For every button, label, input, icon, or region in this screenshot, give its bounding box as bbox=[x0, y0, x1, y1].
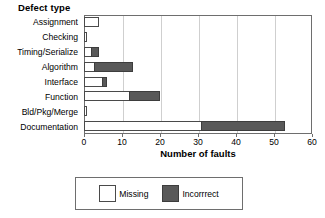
y-label-documentation: Documentation bbox=[0, 119, 81, 134]
bar-segment-missing bbox=[84, 77, 103, 87]
y-label-timing-serialize: Timing/Serialize bbox=[0, 45, 81, 60]
x-axis-ticks: 0102030405060 bbox=[84, 134, 312, 148]
stacked-bar bbox=[84, 47, 99, 57]
legend-swatch-missing-icon bbox=[99, 185, 116, 202]
legend-label-incorrect: Incorrrect bbox=[182, 189, 218, 199]
y-label-assignment: Assignment bbox=[0, 15, 81, 30]
legend-swatch-incorrect-icon bbox=[162, 185, 179, 202]
x-tick-label: 30 bbox=[193, 137, 203, 147]
x-tick-label: 10 bbox=[117, 137, 127, 147]
bar-segment-incorrect bbox=[129, 91, 160, 101]
x-axis-title: Number of faults bbox=[84, 148, 312, 159]
chart-legend: Missing Incorrrect bbox=[75, 177, 243, 210]
legend-item-missing: Missing bbox=[99, 185, 148, 202]
bar-segment-missing bbox=[84, 32, 87, 42]
bar-segment-incorrect bbox=[91, 47, 100, 57]
bar-segment-missing bbox=[84, 121, 202, 131]
y-label-algorithm: Algorithm bbox=[0, 60, 81, 75]
stacked-bar bbox=[84, 17, 99, 27]
x-tick-label: 0 bbox=[82, 137, 87, 147]
bar-segment-missing bbox=[84, 17, 99, 27]
y-label-bld-pkg-merge: Bld/Pkg/Merge bbox=[0, 104, 81, 119]
stacked-bar bbox=[84, 62, 133, 72]
y-label-checking: Checking bbox=[0, 30, 81, 45]
stacked-bar bbox=[84, 32, 87, 42]
chart-title: Defect type bbox=[18, 2, 70, 13]
bar-row bbox=[84, 89, 312, 104]
bar-segment-missing bbox=[84, 91, 130, 101]
legend-label-missing: Missing bbox=[119, 189, 148, 199]
x-tick-label: 20 bbox=[155, 137, 165, 147]
bar-segment-missing bbox=[84, 106, 87, 116]
y-axis-category-labels: Assignment Checking Timing/Serialize Alg… bbox=[0, 15, 81, 134]
y-label-function: Function bbox=[0, 89, 81, 104]
y-label-interface: Interface bbox=[0, 75, 81, 90]
stacked-bar bbox=[84, 121, 285, 131]
x-tick-label: 40 bbox=[231, 137, 241, 147]
stacked-bar bbox=[84, 91, 160, 101]
stacked-bar bbox=[84, 77, 107, 87]
bar-row bbox=[84, 119, 312, 134]
bar-row bbox=[84, 15, 312, 30]
stacked-bar bbox=[84, 106, 87, 116]
bar-row bbox=[84, 60, 312, 75]
bar-row bbox=[84, 30, 312, 45]
legend-item-incorrect: Incorrrect bbox=[162, 185, 218, 202]
bar-segment-incorrect bbox=[102, 77, 107, 87]
bar-row bbox=[84, 104, 312, 119]
bar-row bbox=[84, 45, 312, 60]
bar-row bbox=[84, 75, 312, 90]
bar-segment-incorrect bbox=[94, 62, 133, 72]
bar-segment-incorrect bbox=[201, 121, 286, 131]
bar-series-container bbox=[84, 15, 312, 134]
x-tick-label: 50 bbox=[269, 137, 279, 147]
x-tick-label: 60 bbox=[307, 137, 317, 147]
